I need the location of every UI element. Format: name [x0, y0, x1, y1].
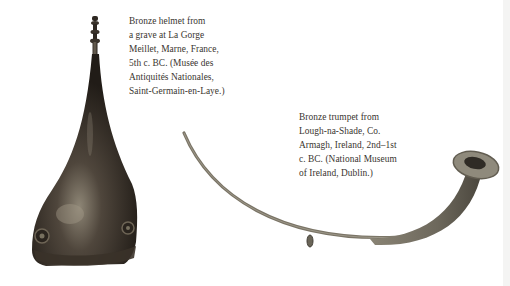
bronze-helmet-image [28, 14, 138, 276]
caption-line: Armagh, Ireland, 2nd–1st [299, 139, 397, 153]
caption-line: Meillet, Marne, France, [129, 43, 225, 57]
caption-line: Lough-na-Shade, Co. [299, 125, 397, 139]
caption-line: of Ireland, Dublin.) [299, 167, 397, 181]
caption-line: Antiquités Nationales, [129, 71, 225, 85]
trumpet-caption: Bronze trumpet from Lough-na-Shade, Co. … [299, 111, 397, 181]
helmet-caption: Bronze helmet from a grave at La Gorge M… [129, 15, 225, 98]
caption-line: 5th c. BC. (Musée des [129, 57, 225, 71]
caption-line: Bronze helmet from [129, 15, 225, 29]
book-page: Bronze helmet from a grave at La Gorge M… [0, 0, 510, 286]
caption-line: Bronze trumpet from [299, 111, 397, 125]
caption-line: c. BC. (National Museum [299, 153, 397, 167]
caption-line: Saint-Germain-en-Laye.) [129, 85, 225, 99]
caption-line: a grave at La Gorge [129, 29, 225, 43]
